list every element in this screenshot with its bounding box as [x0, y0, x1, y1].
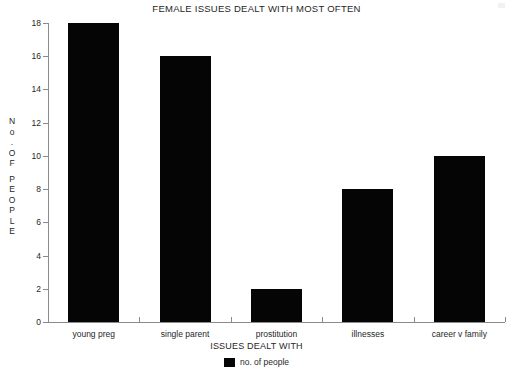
y-axis-tick-label: 6	[1, 217, 41, 227]
y-axis-tick-label: 0	[1, 317, 41, 327]
x-axis-line	[48, 322, 505, 323]
y-axis-tick-label: 4	[1, 251, 41, 261]
y-axis-tick-label: 14	[1, 84, 41, 94]
x-axis-category-label: career v family	[414, 329, 505, 339]
x-axis-tick	[505, 317, 506, 322]
y-axis-title-char: o	[6, 127, 18, 138]
y-axis-tick-label: 10	[1, 151, 41, 161]
x-axis-category-label: young preg	[48, 329, 139, 339]
legend-label-no-of-people: no. of people	[240, 357, 289, 367]
chart-title: FEMALE ISSUES DEALT WITH MOST OFTEN	[0, 3, 513, 14]
bar-chart: FEMALE ISSUES DEALT WITH MOST OFTEN No.O…	[0, 0, 513, 377]
bar[interactable]	[342, 189, 393, 322]
x-axis-category-label: single parent	[139, 329, 230, 339]
y-axis-title-char: E	[6, 226, 18, 237]
bar[interactable]	[68, 23, 119, 322]
y-axis-tick	[43, 322, 48, 323]
bars-layer	[48, 23, 505, 322]
plot-area	[48, 23, 505, 322]
bar[interactable]	[434, 156, 485, 322]
y-axis-tick-label: 8	[1, 184, 41, 194]
bar[interactable]	[160, 56, 211, 322]
x-axis-category-label: prostitution	[231, 329, 322, 339]
y-axis-title-char: P	[6, 174, 18, 185]
legend-swatch-no-of-people	[224, 358, 235, 367]
y-axis-tick-label: 16	[1, 51, 41, 61]
x-axis-title: ISSUES DEALT WITH	[0, 341, 513, 351]
chart-legend: no. of people	[0, 357, 513, 367]
y-axis-title-char: O	[6, 195, 18, 206]
y-axis-tick-label: 12	[1, 118, 41, 128]
y-axis-title-char: .	[6, 137, 18, 148]
y-axis-tick-label: 18	[1, 18, 41, 28]
y-axis-tick-label: 2	[1, 284, 41, 294]
bar[interactable]	[251, 289, 302, 322]
y-axis-title-char: P	[6, 205, 18, 216]
x-axis-category-label: illnesses	[322, 329, 413, 339]
